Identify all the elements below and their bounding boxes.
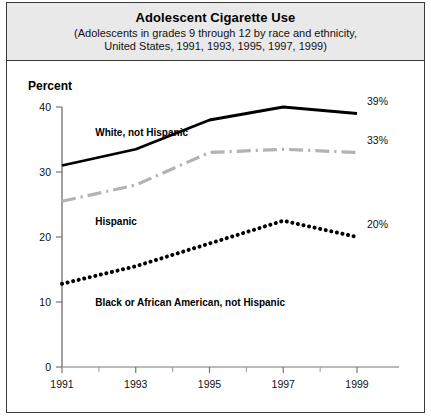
subtitle-line-2: United States, 1991, 1993, 1995, 1997, 1… <box>104 40 327 54</box>
x-tick-label: 1991 <box>50 378 74 390</box>
x-tick-label: 1999 <box>345 378 369 390</box>
series-end-labels: 39%33%20% <box>367 95 388 231</box>
subtitle-line-1: (Adolescents in grades 9 through 12 by r… <box>74 27 357 41</box>
series-annotation: White, not Hispanic <box>95 127 188 138</box>
series-annotations: White, not HispanicHispanicBlack or Afri… <box>95 127 285 308</box>
series-line <box>62 221 357 284</box>
series-end-label: 33% <box>367 134 388 146</box>
x-tick-label: 1997 <box>272 378 296 390</box>
y-tick-label: 20 <box>39 231 51 243</box>
x-tick-label: 1993 <box>124 378 148 390</box>
y-tick-label: 10 <box>39 296 51 308</box>
page-title: Adolescent Cigarette Use <box>136 10 296 25</box>
series-annotation: Black or African American, not Hispanic <box>95 297 285 308</box>
y-axis-ticks: 010203040 <box>39 101 62 373</box>
x-tick-label: 1995 <box>198 378 222 390</box>
chart-figure: Adolescent Cigarette Use (Adolescents in… <box>0 0 431 417</box>
x-axis-ticks: 19911993199519971999 <box>50 367 369 390</box>
series-end-label: 39% <box>367 95 388 107</box>
chart-canvas: 010203040 19911993199519971999 White, no… <box>7 61 424 412</box>
y-tick-label: 40 <box>39 101 51 113</box>
y-tick-label: 30 <box>39 166 51 178</box>
plot-area: Percent 010203040 19911993199519971999 W… <box>7 61 424 412</box>
series-annotation: Hispanic <box>95 216 137 227</box>
series-end-label: 20% <box>367 218 388 230</box>
y-tick-label: 0 <box>45 361 51 373</box>
title-band: Adolescent Cigarette Use (Adolescents in… <box>7 3 424 61</box>
